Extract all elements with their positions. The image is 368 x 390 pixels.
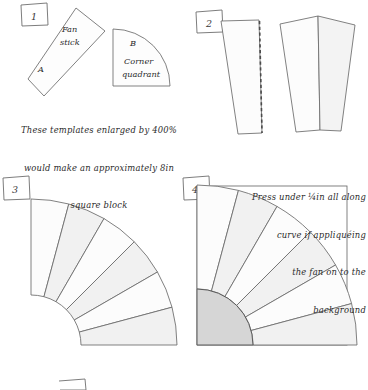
step-1-number: 1 xyxy=(31,11,37,22)
step-4-caption-line-3: the fan on to the xyxy=(236,266,366,279)
template-b-name-line2: quadrant xyxy=(122,69,161,79)
step-2-joined-fan-sticks xyxy=(280,16,355,132)
step-2-number-box: 2 xyxy=(196,10,223,33)
step-4-caption-line-2: curve if appliquéing xyxy=(236,229,366,242)
template-b-name-line1: Corner xyxy=(124,56,154,66)
template-a-name-line1: Fan xyxy=(61,24,77,34)
step-4-caption: Press under ¼in all along curve if appli… xyxy=(236,166,366,341)
step-1-caption-line-3: square block xyxy=(14,199,184,212)
step-1-caption-line-2: would make an approximately 8in xyxy=(14,162,184,175)
template-a-name-line2: stick xyxy=(60,37,80,47)
template-a-letter: A xyxy=(37,64,44,74)
step-4-caption-line-4: background xyxy=(236,304,366,317)
template-b-letter: B xyxy=(129,38,136,48)
step-2-number: 2 xyxy=(205,18,212,29)
step-1-number-box: 1 xyxy=(21,3,48,26)
step-1-caption: These templates enlarged by 400% would m… xyxy=(14,99,184,237)
template-b-corner-quadrant: B Corner quadrant xyxy=(113,29,170,86)
step-4-caption-line-1: Press under ¼in all along xyxy=(236,191,366,204)
step-1-caption-line-1: These templates enlarged by 400% xyxy=(14,124,184,137)
instruction-sheet: 1 Fan stick A B Corner quadrant 2 xyxy=(0,0,368,390)
step-2-left-fan-stick xyxy=(221,20,262,134)
step-5-number-box-partial xyxy=(59,379,86,390)
